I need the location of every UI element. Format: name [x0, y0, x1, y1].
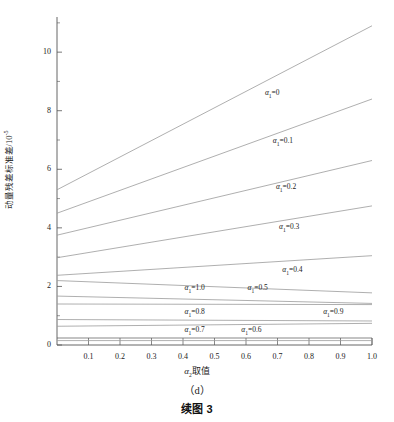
series-line--1-0-4 — [57, 256, 372, 276]
series-label--1-0-7: α1=0.7 — [185, 325, 205, 336]
x-tick-label: 0.2 — [108, 352, 132, 361]
series-line--1-0 — [57, 26, 372, 190]
series-line--1-0-3 — [57, 206, 372, 258]
x-tick-label: 0.3 — [140, 352, 164, 361]
panel-identifier: （d） — [0, 382, 394, 397]
x-tick-label: 0.6 — [234, 352, 258, 361]
x-tick-label: 1.0 — [360, 352, 384, 361]
series-label--1-0-4: α1=0.4 — [282, 265, 302, 276]
y-axis-title-exponent: -5 — [3, 131, 9, 136]
series-line--1-0-2 — [57, 161, 372, 236]
y-tick-label: 8 — [29, 106, 51, 115]
series-label--1-0: α1=0 — [265, 88, 280, 99]
series-line--1-0-9 — [57, 304, 372, 305]
series-label--1-0-2: α1=0.2 — [276, 182, 296, 193]
x-tick-label: 0.1 — [77, 352, 101, 361]
y-tick-label: 4 — [29, 223, 51, 232]
x-axis-title-rest: 取值 — [192, 366, 210, 376]
series-label--1-1-0: α1=1.0 — [185, 283, 205, 294]
series-line--1-0-8 — [57, 320, 372, 321]
series-label--1-0-8: α1=0.8 — [185, 307, 205, 318]
y-axis-title-text: 动量残差标准差/10 — [4, 136, 14, 210]
plot-frame — [57, 17, 372, 345]
series-label--1-0-9: α1=0.9 — [323, 307, 343, 318]
x-axis-title: α2取值 — [0, 364, 394, 378]
series-label--1-0-5: α1=0.5 — [248, 283, 268, 294]
y-tick-label: 2 — [29, 281, 51, 290]
x-tick-label: 0.7 — [266, 352, 290, 361]
x-axis-ticks — [89, 338, 373, 345]
series-label--1-0-6: α1=0.6 — [241, 325, 261, 336]
x-tick-label: 0.4 — [171, 352, 195, 361]
series-label--1-0-1: α1=0.1 — [273, 136, 293, 147]
x-tick-label: 0.9 — [329, 352, 353, 361]
series-label--1-0-3: α1=0.3 — [279, 222, 299, 233]
series-line--1-0-1 — [57, 99, 372, 213]
series-line--1-0-6 — [57, 323, 372, 326]
series-line--1-0-5 — [57, 296, 372, 303]
y-tick-label: 10 — [29, 47, 51, 56]
figure-panel-d: 动量残差标准差/10-5 α2取值 （d） 续图 3 02468100.10.2… — [0, 0, 394, 422]
y-axis-ticks — [57, 23, 62, 345]
y-tick-label: 0 — [29, 340, 51, 349]
x-tick-label: 0.5 — [203, 352, 227, 361]
series-line--1-1-0 — [57, 281, 372, 293]
x-tick-label: 0.8 — [297, 352, 321, 361]
series-lines — [57, 26, 372, 341]
figure-caption: 续图 3 — [0, 400, 394, 416]
y-axis-title: 动量残差标准差/10-5 — [2, 105, 16, 235]
y-tick-label: 6 — [29, 164, 51, 173]
